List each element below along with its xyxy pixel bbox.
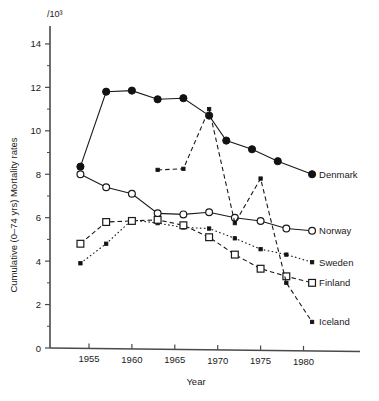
data-point [154, 96, 161, 103]
data-point [223, 137, 230, 144]
data-point [77, 240, 84, 247]
series-sweden [79, 218, 314, 265]
x-axis-tick-label: 1970 [207, 355, 228, 366]
data-point [77, 171, 84, 178]
data-point [128, 87, 135, 94]
data-point [104, 242, 107, 245]
data-point [257, 218, 264, 225]
data-point [257, 265, 264, 272]
series-label-norway: Norway [319, 225, 351, 236]
data-point [233, 221, 236, 224]
series-label-sweden: Sweden [319, 257, 353, 268]
data-point [206, 234, 213, 241]
data-point [207, 227, 210, 230]
y-axis-tick-label: 4 [36, 256, 41, 267]
data-point [285, 281, 288, 284]
series-norway [77, 171, 315, 234]
data-point [274, 158, 281, 165]
series-label-iceland: Iceland [319, 316, 350, 327]
data-point [180, 95, 187, 102]
x-axis-line [50, 348, 360, 352]
data-point [206, 209, 213, 216]
series-label-finland: Finland [319, 277, 350, 288]
data-point [129, 190, 136, 197]
y-axis-tick-label: 8 [36, 169, 41, 180]
y-axis-title: Cumulative (0–74 yrs) Mortality rates [8, 137, 19, 292]
data-point [79, 262, 82, 265]
data-point [156, 168, 159, 171]
y-axis-tick-label: 14 [30, 38, 41, 49]
data-point [154, 216, 161, 223]
data-point [154, 210, 161, 217]
data-point [309, 227, 316, 234]
data-point [283, 273, 290, 280]
data-point [103, 88, 110, 95]
data-point [103, 219, 110, 226]
tick-labels: 02468101214195519601965197019751980 [30, 38, 314, 366]
data-point [233, 237, 236, 240]
y-axis-tick-label: 2 [36, 299, 41, 310]
data-point [285, 253, 288, 256]
x-axis-tick-label: 1980 [293, 356, 314, 367]
data-point [129, 218, 136, 225]
data-point [309, 279, 316, 286]
x-axis-title: Year [186, 376, 205, 387]
series-denmark [77, 87, 316, 178]
data-point [207, 107, 210, 110]
mortality-rates-line-chart: 02468101214195519601965197019751980 Denm… [0, 0, 379, 401]
x-axis-tick-label: 1955 [78, 353, 99, 364]
series-line [80, 220, 312, 283]
data-point [77, 163, 84, 170]
data-point [180, 222, 187, 229]
x-axis-tick-label: 1965 [164, 354, 185, 365]
y-axis-tick-label: 6 [36, 212, 41, 223]
x-axis-tick-label: 1975 [250, 355, 271, 366]
data-point [310, 320, 313, 323]
axes [45, 26, 360, 352]
x-axis-tick-label: 1960 [121, 354, 142, 365]
data-point [182, 167, 185, 170]
data-point [103, 184, 110, 191]
y-axis-tick-label: 10 [30, 125, 41, 136]
series-labels: DenmarkNorwaySwedenFinlandIceland [319, 169, 358, 328]
data-series [77, 87, 316, 324]
data-point [259, 247, 262, 250]
data-point [231, 251, 238, 258]
data-point [259, 177, 262, 180]
series-label-denmark: Denmark [319, 169, 358, 180]
data-point [180, 211, 187, 218]
chart-figure: 02468101214195519601965197019751980 Denm… [0, 0, 379, 401]
y-axis-tick-label: 12 [30, 82, 41, 93]
data-point [283, 225, 290, 232]
data-point [308, 171, 315, 178]
y-axis-tick-label: 0 [36, 343, 41, 354]
data-point [310, 261, 313, 264]
data-point [248, 146, 255, 153]
series-line [80, 174, 312, 230]
y-axis-unit-label: /10³ [47, 9, 63, 19]
